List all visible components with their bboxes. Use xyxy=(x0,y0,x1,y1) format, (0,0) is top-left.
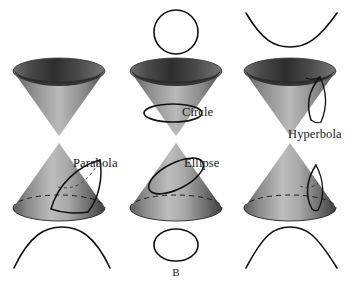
figure-caption: B xyxy=(0,266,352,278)
conic-sections-illustration xyxy=(0,0,352,290)
hyperbola-upper-branch-2d xyxy=(246,13,337,47)
ellipse-curve-2d xyxy=(154,229,198,261)
circle-curve-2d xyxy=(154,10,198,54)
upper-cone-middle xyxy=(130,58,222,136)
upper-cone-left xyxy=(13,58,105,136)
hyperbola-lower-branch-2d xyxy=(246,227,337,268)
lower-cone-middle xyxy=(130,143,222,221)
label-hyperbola: Hyperbola xyxy=(288,127,342,142)
label-ellipse: Ellipse xyxy=(184,156,219,171)
parabola-curve-2d xyxy=(14,227,110,268)
cone-outer-surface xyxy=(130,143,222,221)
lower-cone-left xyxy=(13,143,105,221)
upper-cone-right xyxy=(244,58,336,136)
label-circle: Circle xyxy=(182,105,213,120)
hyperbola-cut-upper-close xyxy=(311,120,321,123)
panel-circle-ellipse xyxy=(130,10,222,261)
conic-sections-figure: Parabola Circle Ellipse Hyperbola B xyxy=(0,0,352,290)
label-parabola: Parabola xyxy=(73,156,118,171)
cone-outer-surface xyxy=(13,143,105,221)
